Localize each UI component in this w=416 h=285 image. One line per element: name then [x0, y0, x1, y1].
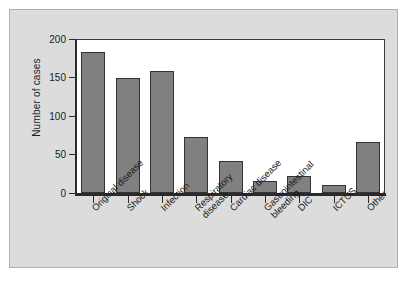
- y-tick-0: 0: [60, 188, 75, 198]
- y-axis-title: Number of cases: [31, 46, 42, 150]
- bar-slot: [184, 39, 208, 193]
- y-tick-label: 0: [60, 188, 66, 199]
- y-tick-50: 50: [55, 150, 75, 160]
- y-tick-label: 200: [49, 34, 66, 45]
- bar-slot: [322, 39, 346, 193]
- bar: [81, 52, 105, 193]
- y-tick-label: 150: [49, 72, 66, 83]
- y-tick-label: 100: [49, 111, 66, 122]
- bar-slot: [219, 39, 243, 193]
- bar-series: [76, 39, 385, 193]
- bar-slot: [356, 39, 380, 193]
- y-tick-200: 200: [49, 34, 75, 44]
- bar: [150, 71, 174, 193]
- figure-panel: 050100150200 Number of cases Original di…: [9, 9, 398, 268]
- bar-slot: [81, 39, 105, 193]
- y-tick-label: 50: [55, 149, 66, 160]
- y-tick-100: 100: [49, 111, 75, 121]
- y-tick-150: 150: [49, 73, 75, 83]
- bar: [356, 142, 380, 193]
- bar-slot: [150, 39, 174, 193]
